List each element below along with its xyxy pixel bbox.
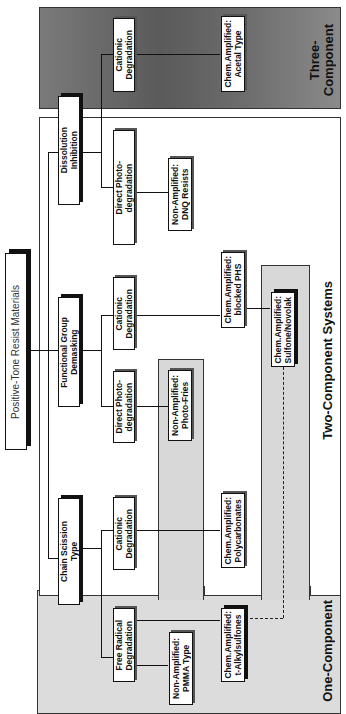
connector-cationic-phs	[135, 315, 220, 316]
two-component-inner-right	[310, 586, 341, 596]
connector-cationic-polycarb	[135, 530, 220, 531]
node-functional-group-demasking: Functional Group Demasking	[58, 297, 80, 407]
node-cs-cationic-degradation: Cationic Degradation	[113, 497, 135, 570]
two-component-inner-mid	[204, 586, 262, 596]
connector-di-cationic	[101, 54, 113, 55]
root-box: Positive-Tone Resist Materials	[5, 253, 27, 450]
connector-fr-pmma	[135, 665, 168, 666]
node-chain-scission: Chain Scission Type	[58, 498, 80, 605]
connector-trunk-vertical	[48, 152, 49, 558]
connector-di-direct	[101, 187, 113, 188]
connector-fr-talkyl	[135, 620, 220, 621]
two-component-inner-left	[39, 586, 159, 596]
connector-cs-vertical	[101, 530, 102, 657]
node-photo-fries: Non-Amplified: Photo-Fries	[168, 370, 192, 441]
connector-to-chain-scission	[48, 558, 58, 559]
connector-direct-dnq	[135, 192, 168, 193]
connector-cs-cationic	[101, 530, 113, 531]
node-di-direct-photodegradation: Direct Photo- degradation	[113, 130, 135, 245]
connector-cs-freeradical	[101, 657, 113, 658]
connector-phs-sulfone	[245, 308, 270, 309]
node-polycarbonates: Chem.Amplified: Polycarbonates	[221, 493, 245, 568]
node-fgd-cationic-degradation: Cationic Degradation	[113, 277, 135, 350]
connector-fgd-mid	[80, 350, 101, 351]
dashed-connector-horizontal	[245, 618, 283, 619]
connector-root-trunk	[27, 350, 58, 351]
node-sulfone-novolak: Chem.Amplified: Sulfone/Novolak	[271, 292, 295, 367]
connector-cs-mid	[80, 548, 101, 549]
node-fgd-direct-photodegradation: Direct Photo- degradation	[113, 371, 135, 443]
connector-direct-photofries	[135, 406, 168, 407]
node-pmma-type: Non-Amplified: PMMA Type	[169, 632, 193, 705]
node-dissolution-inhibition: Dissolution Inhibition	[58, 96, 80, 205]
connector-fgd-vertical	[101, 315, 102, 406]
node-t-alkylsulfones: Chem.Amplified: t-Alkylsulfones	[221, 608, 245, 682]
node-di-cationic-degradation: Cationic Degradation	[113, 18, 135, 92]
node-cs-free-radical-degradation: Free Radical Degradation	[113, 608, 135, 682]
root-title: Positive-Tone Resist Materials	[11, 285, 21, 419]
connector-to-dissolution	[48, 152, 58, 153]
connector-di-vertical	[101, 54, 102, 187]
label-three-component: Three- Component	[305, 20, 339, 100]
connector-cationic-acetal	[135, 54, 220, 55]
dashed-connector-vertical	[283, 367, 284, 618]
node-blocked-phs: Chem.Amplified: blocked PHS	[221, 252, 245, 328]
node-acetal-type: Chem.Amplified: Acetal Type	[221, 16, 245, 92]
connector-di-mid	[80, 152, 101, 153]
connector-fgd-direct	[101, 406, 113, 407]
region-three-component	[39, 7, 341, 109]
label-one-component: One-Component	[318, 596, 338, 706]
connector-fgd-cationic	[101, 315, 113, 316]
label-two-component: Two-Component Systems	[318, 240, 338, 480]
node-dnq-resists: Non-Amplified: DNQ Resists	[168, 158, 192, 231]
